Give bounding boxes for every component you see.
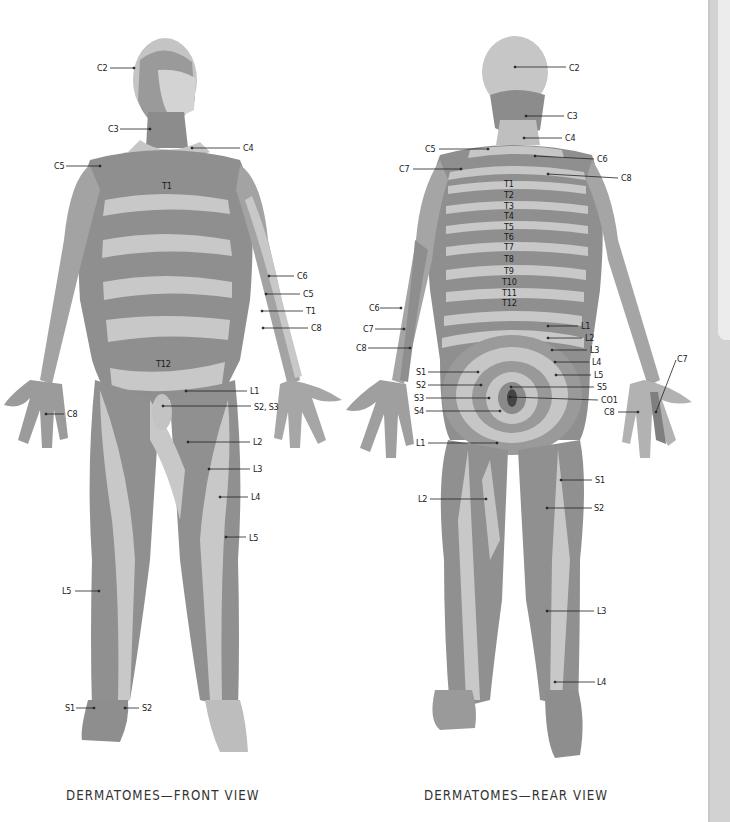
front-body-illustration xyxy=(0,0,365,822)
rear-label-l3-back: L3 xyxy=(590,345,599,355)
rear-label-l4-back: L4 xyxy=(592,357,601,367)
rear-label-c7-hand: C7 xyxy=(677,354,687,364)
front-label-l1: L1 xyxy=(250,386,259,396)
scrollbar-edge xyxy=(708,0,710,822)
rear-label-t5: T5 xyxy=(504,222,514,232)
rear-label-t1: T1 xyxy=(504,179,514,189)
front-label-t12: T12 xyxy=(156,359,171,369)
rear-label-c8-back: C8 xyxy=(621,173,631,183)
front-label-c8-arm: C8 xyxy=(311,323,321,333)
rear-label-c5: C5 xyxy=(425,144,435,154)
scrollbar-thumb[interactable] xyxy=(718,0,730,340)
rear-label-l4-ankle: L4 xyxy=(597,677,606,687)
rear-label-l5-back: L5 xyxy=(594,370,603,380)
front-label-l4: L4 xyxy=(251,492,260,502)
front-label-t1-chest: T1 xyxy=(162,181,172,191)
rear-label-t12: T12 xyxy=(502,298,517,308)
rear-body-illustration xyxy=(340,0,708,822)
rear-label-s2-thigh: S2 xyxy=(594,503,604,513)
rear-label-l2-thigh: L2 xyxy=(418,494,427,504)
rear-label-l2-back: L2 xyxy=(585,333,594,343)
front-label-l5-left: L5 xyxy=(62,586,71,596)
front-label-s1: S1 xyxy=(65,703,75,713)
rear-label-co1: CO1 xyxy=(601,395,618,405)
rear-label-t8: T8 xyxy=(504,254,514,264)
front-view-figure: C2 C3 C4 C5 T1 C6 C5 T1 C8 T12 L1 S2, S3… xyxy=(0,0,365,822)
rear-label-l3-calf: L3 xyxy=(597,606,606,616)
rear-label-t9: T9 xyxy=(504,266,514,276)
front-view-caption: DERMATOMES—FRONT VIEW xyxy=(66,787,260,803)
document-page: C2 C3 C4 C5 T1 C6 C5 T1 C8 T12 L1 S2, S3… xyxy=(0,0,708,822)
rear-label-c7-arm: C7 xyxy=(363,324,373,334)
rear-label-c3: C3 xyxy=(567,111,577,121)
front-label-l5-right: L5 xyxy=(249,533,258,543)
rear-label-s3: S3 xyxy=(414,393,424,403)
rear-view-caption: DERMATOMES—REAR VIEW xyxy=(424,787,608,803)
front-label-s2: S2 xyxy=(142,703,152,713)
rear-label-s2-buttock: S2 xyxy=(416,380,426,390)
front-label-l2: L2 xyxy=(253,437,262,447)
rear-label-s4: S4 xyxy=(414,406,424,416)
rear-label-c2: C2 xyxy=(569,63,579,73)
front-label-c3: C3 xyxy=(108,124,118,134)
rear-label-t3: T3 xyxy=(504,201,514,211)
rear-label-s1-buttock: S1 xyxy=(416,367,426,377)
rear-label-c6-shoulder: C6 xyxy=(597,154,607,164)
rear-label-t4: T4 xyxy=(504,211,514,221)
rear-view-figure: C2 C3 C4 C5 C6 C7 C8 T1 T2 T3 T4 T5 T6 T… xyxy=(340,0,708,822)
rear-label-t10: T10 xyxy=(502,277,517,287)
rear-label-c8-arm: C8 xyxy=(356,343,366,353)
rear-label-t2: T2 xyxy=(504,190,514,200)
rear-label-c7-shoulder: C7 xyxy=(399,164,409,174)
front-label-c6: C6 xyxy=(297,271,307,281)
rear-label-t6: T6 xyxy=(504,232,514,242)
rear-label-l1-thigh: L1 xyxy=(416,438,425,448)
rear-label-t7: T7 xyxy=(504,242,514,252)
rear-label-s5: S5 xyxy=(597,382,607,392)
front-label-c5-arm: C5 xyxy=(303,289,313,299)
rear-label-l1-back: L1 xyxy=(581,321,590,331)
rear-label-c4: C4 xyxy=(565,133,575,143)
rear-label-t11: T11 xyxy=(502,288,517,298)
front-label-c2: C2 xyxy=(97,63,107,73)
rear-label-s1-thigh: S1 xyxy=(595,475,605,485)
front-label-t1-arm: T1 xyxy=(306,306,316,316)
rear-label-c8-hand: C8 xyxy=(604,407,614,417)
front-label-c5-shoulder: C5 xyxy=(54,161,64,171)
rear-label-c6-arm: C6 xyxy=(369,303,379,313)
vertical-scrollbar[interactable] xyxy=(708,0,730,822)
front-label-c8-hand: C8 xyxy=(67,409,77,419)
front-label-l3: L3 xyxy=(253,464,262,474)
front-label-s2-s3: S2, S3 xyxy=(254,402,279,412)
front-label-c4: C4 xyxy=(243,143,253,153)
